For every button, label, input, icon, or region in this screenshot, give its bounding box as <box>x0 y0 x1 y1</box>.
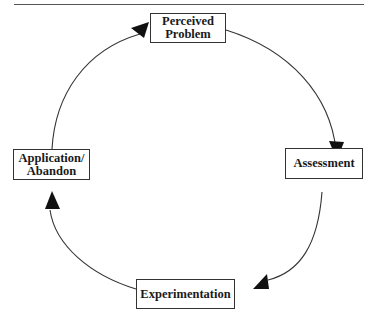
edge-experimentation-to-application <box>50 210 136 289</box>
node-experimentation: Experimentation <box>136 279 235 309</box>
edge-perceived-to-assessment <box>226 30 336 150</box>
node-perceived-problem: Perceived Problem <box>150 13 226 43</box>
node-application-abandon: Application/ Abandon <box>13 149 90 180</box>
arrowhead-application <box>45 191 60 209</box>
node-assessment: Assessment <box>285 148 363 179</box>
arrowhead-experimentation <box>253 274 269 289</box>
edge-assessment-to-experimentation <box>268 192 322 280</box>
edge-application-to-perceived <box>52 34 140 149</box>
